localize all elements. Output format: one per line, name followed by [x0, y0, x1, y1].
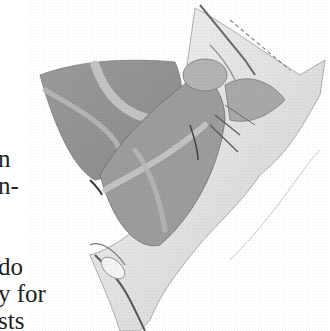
text-line-5: do [0, 254, 23, 279]
moth-body-group [30, 0, 330, 331]
text-line-2: n- [0, 173, 19, 198]
book-page: n n- do y for sts [0, 0, 330, 331]
moth-illustration [30, 0, 330, 331]
text-line-1: n [0, 146, 11, 171]
text-line-7: sts [0, 308, 24, 331]
